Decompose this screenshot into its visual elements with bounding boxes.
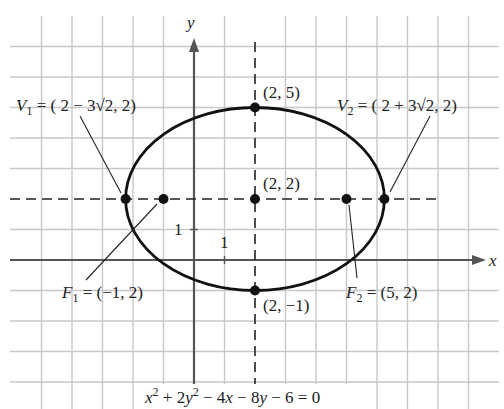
label-f2: F2 = (5, 2) xyxy=(345,283,417,305)
y-axis-label: y xyxy=(185,13,195,32)
bottom-point xyxy=(250,286,260,296)
ellipse-diagram: y x 1 1 V1 = ( 2 − 3√2, 2) V2 = ( 2 + 3√… xyxy=(0,0,504,409)
x-axis-arrow-icon xyxy=(472,255,486,265)
x-axis-label: x xyxy=(488,251,497,270)
label-center: (2, 2) xyxy=(263,174,300,193)
focus-f2-point xyxy=(342,194,352,204)
label-v1: V1 = ( 2 − 3√2, 2) xyxy=(16,96,136,118)
label-bottom: (2, −1) xyxy=(263,296,309,315)
y-axis-arrow-icon xyxy=(189,38,199,52)
x-tick-label: 1 xyxy=(220,233,229,252)
vertex-v1-point xyxy=(121,194,131,204)
label-f1: F1 = (−1, 2) xyxy=(61,283,143,305)
vertex-v2-point xyxy=(379,194,389,204)
label-v2: V2 = ( 2 + 3√2, 2) xyxy=(337,96,457,118)
equation-label: x2 + 2y2 − 4x − 8y − 6 = 0 xyxy=(144,385,320,407)
center-point xyxy=(250,194,260,204)
label-top: (2, 5) xyxy=(263,83,300,102)
focus-f1-point xyxy=(159,194,169,204)
top-point xyxy=(250,103,260,113)
y-tick-label: 1 xyxy=(174,220,183,239)
